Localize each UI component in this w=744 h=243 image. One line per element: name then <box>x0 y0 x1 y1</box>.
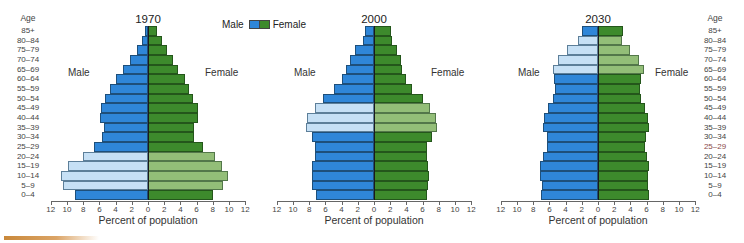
female-bar <box>598 65 644 75</box>
male-bar <box>553 65 598 75</box>
male-bar <box>544 113 598 123</box>
female-bar <box>598 45 630 55</box>
female-bar <box>598 123 649 133</box>
male-bar <box>578 36 598 46</box>
x-tick-label: 8 <box>531 205 535 214</box>
female-bar <box>598 181 648 191</box>
male-bar <box>543 123 598 133</box>
pyramid-chart-2030: 2030MaleFemale12108642024681012Percent o… <box>0 0 744 243</box>
male-bar <box>554 74 598 84</box>
x-tick-label: 6 <box>547 205 551 214</box>
male-bar <box>555 84 598 94</box>
male-bar <box>567 45 598 55</box>
x-tick-label: 2 <box>580 205 584 214</box>
male-bar <box>540 171 598 181</box>
male-bar <box>553 94 598 104</box>
male-bar <box>547 142 598 152</box>
female-bar <box>598 152 647 162</box>
x-tick-label: 10 <box>675 205 684 214</box>
female-bar <box>598 84 640 94</box>
decorative-accent-bar <box>4 236 99 240</box>
female-side-label: Female <box>655 67 688 78</box>
male-side-label: Male <box>518 67 540 78</box>
female-bar <box>598 74 641 84</box>
x-axis-title: Percent of population <box>548 214 647 226</box>
female-bar <box>598 36 622 46</box>
x-tick-label: 4 <box>628 205 632 214</box>
x-tick-label: 2 <box>612 205 616 214</box>
chart-title: 2030 <box>585 13 611 25</box>
male-bar <box>542 181 598 191</box>
male-bar <box>582 26 598 36</box>
female-bar <box>598 190 649 200</box>
female-bar <box>598 103 645 113</box>
female-bar <box>598 26 623 36</box>
center-axis-line <box>598 26 599 200</box>
x-tick-label: 4 <box>563 205 567 214</box>
female-bar <box>598 55 639 65</box>
male-bar <box>547 132 598 142</box>
female-bar <box>598 94 641 104</box>
male-bar <box>540 161 598 171</box>
x-tick-label: 12 <box>496 205 505 214</box>
male-bar <box>543 152 598 162</box>
female-bar <box>598 142 645 152</box>
male-bar <box>558 55 598 65</box>
x-tick-label: 6 <box>644 205 648 214</box>
female-bar <box>598 161 649 171</box>
x-tick-label: 10 <box>513 205 522 214</box>
male-bar <box>541 190 598 200</box>
male-bar <box>548 103 598 113</box>
x-tick-label: 0 <box>596 205 600 214</box>
x-tick-label: 12 <box>691 205 700 214</box>
female-bar <box>598 113 648 123</box>
female-bar <box>598 132 646 142</box>
female-bar <box>598 171 648 181</box>
x-tick-label: 8 <box>661 205 665 214</box>
